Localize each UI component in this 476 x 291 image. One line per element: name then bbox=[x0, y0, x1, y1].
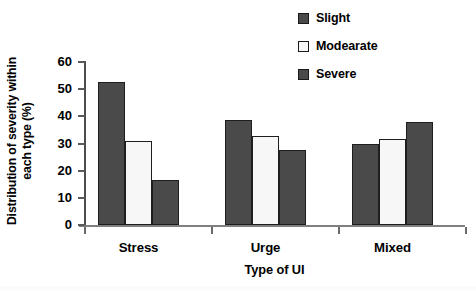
x-axis-title: Type of UI bbox=[84, 262, 465, 277]
bar-stress-slight bbox=[98, 82, 125, 225]
x-axis-tick bbox=[465, 227, 467, 234]
y-axis-tick-label: 40 bbox=[46, 109, 72, 122]
plot-area bbox=[84, 62, 465, 225]
bar-mixed-severe bbox=[406, 122, 433, 225]
y-axis-tick-label: 60 bbox=[46, 55, 72, 68]
x-axis-category-label: Mixed bbox=[343, 240, 443, 255]
scan-artifact-strip bbox=[0, 286, 476, 291]
y-axis-tick-label: 30 bbox=[46, 137, 72, 150]
x-axis-line bbox=[79, 225, 465, 227]
legend-label-slight: Slight bbox=[316, 12, 350, 25]
bar-stress-modearate bbox=[125, 141, 152, 225]
x-axis-tick bbox=[84, 227, 86, 234]
bar-mixed-modearate bbox=[379, 139, 406, 225]
y-axis-title-line-1: Distribution of severity within bbox=[5, 48, 20, 234]
y-axis-title: Distribution of severity within each typ… bbox=[0, 48, 40, 234]
legend-swatch-slight-icon bbox=[298, 13, 309, 24]
x-axis-category-label: Urge bbox=[216, 240, 316, 255]
legend-item-moderate: Modearate bbox=[298, 32, 468, 60]
bar-urge-modearate bbox=[252, 136, 279, 225]
x-axis-tick bbox=[338, 227, 340, 234]
bar-mixed-slight bbox=[352, 144, 379, 225]
bar-stress-severe bbox=[152, 180, 179, 225]
bar-urge-severe bbox=[279, 150, 306, 225]
y-axis-tick-label: 0 bbox=[46, 218, 72, 231]
legend-item-slight: Slight bbox=[298, 4, 468, 32]
legend-swatch-moderate-icon bbox=[298, 41, 309, 52]
y-axis-tick-label: 20 bbox=[46, 164, 72, 177]
bar-urge-slight bbox=[225, 120, 252, 225]
y-axis-tick-label: 50 bbox=[46, 82, 72, 95]
bar-chart-figure: Slight Modearate Severe Distribution of … bbox=[0, 0, 476, 291]
y-axis-tick-label: 10 bbox=[46, 191, 72, 204]
x-axis-category-label: Stress bbox=[89, 240, 189, 255]
legend-label-moderate: Modearate bbox=[316, 40, 378, 53]
x-axis-tick bbox=[211, 227, 213, 234]
y-axis-title-line-2: each type (%) bbox=[20, 48, 35, 234]
